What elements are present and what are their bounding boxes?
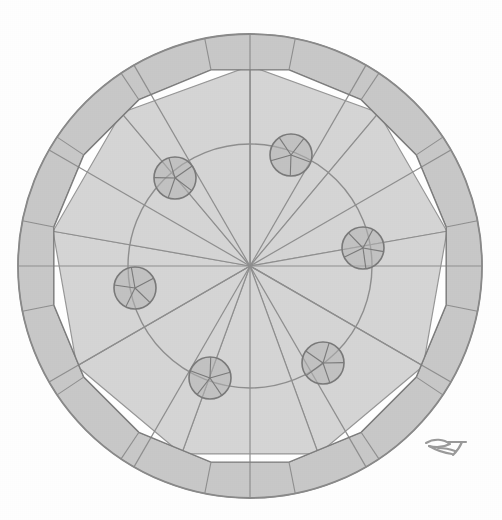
node-circle: [270, 134, 312, 176]
node-circle: [302, 342, 344, 384]
figure-canvas: [0, 0, 502, 520]
node-circle: [342, 227, 384, 269]
node-circle: [189, 357, 231, 399]
node-circle: [114, 267, 156, 309]
node-spoke: [210, 357, 211, 378]
rosette-diagram: [0, 0, 502, 520]
artist-monogram-icon: [426, 440, 466, 455]
node-circle: [154, 157, 196, 199]
node-spoke: [290, 155, 291, 176]
monogram-stroke: [453, 442, 462, 455]
